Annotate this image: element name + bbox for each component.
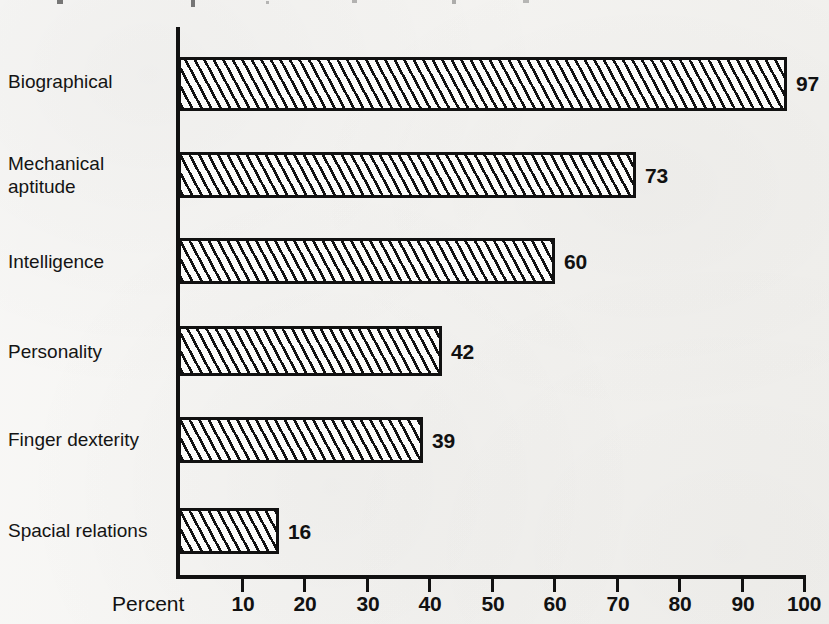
x-tick-10 [241,579,244,592]
x-tick-label-50: 50 [482,592,505,616]
bar-value-finger-dexterity: 39 [432,429,455,453]
bar-chart-figure: Biographical Mechanical aptitude Intelli… [0,0,829,624]
cropped-title-remnant [266,1,269,4]
category-label-biographical: Biographical [8,70,174,93]
bar-value-mechanical-aptitude: 73 [645,164,668,188]
x-tick-label-70: 70 [607,592,630,616]
x-tick-70 [616,579,619,592]
x-tick-label-40: 40 [419,592,442,616]
x-axis-title: Percent [112,592,184,616]
bar-personality [178,326,442,376]
category-label-mechanical-aptitude: Mechanical aptitude [8,152,174,198]
x-tick-label-20: 20 [294,592,317,616]
x-tick-90 [741,579,744,592]
x-tick-20 [303,579,306,592]
category-label-finger-dexterity: Finger dexterity [8,428,174,451]
x-tick-label-10: 10 [232,592,255,616]
cropped-title-remnant [191,0,195,7]
bar-value-intelligence: 60 [564,250,587,274]
category-label-spacial-relations: Spacial relations [8,519,174,542]
x-tick-label-60: 60 [544,592,567,616]
x-tick-40 [428,579,431,592]
x-tick-50 [491,579,494,592]
cropped-title-remnant [352,0,357,3]
bar-finger-dexterity [178,417,423,463]
x-tick-80 [678,579,681,592]
x-tick-label-90: 90 [732,592,755,616]
bar-intelligence [178,238,555,284]
x-tick-100 [803,579,806,592]
category-label-intelligence: Intelligence [8,250,174,273]
bar-value-biographical: 97 [796,72,819,96]
bar-value-personality: 42 [451,340,474,364]
x-tick-60 [553,579,556,592]
x-tick-label-100: 100 [787,592,821,616]
cropped-title-remnant [57,0,63,4]
cropped-title-remnant [452,0,456,4]
bar-biographical [178,57,787,111]
x-tick-30 [366,579,369,592]
x-tick-label-80: 80 [669,592,692,616]
cropped-title-remnant [523,0,529,3]
bar-spacial-relations [178,508,279,554]
bar-value-spacial-relations: 16 [288,520,311,544]
bar-mechanical-aptitude [178,152,636,198]
x-tick-label-30: 30 [357,592,380,616]
category-label-personality: Personality [8,340,174,363]
